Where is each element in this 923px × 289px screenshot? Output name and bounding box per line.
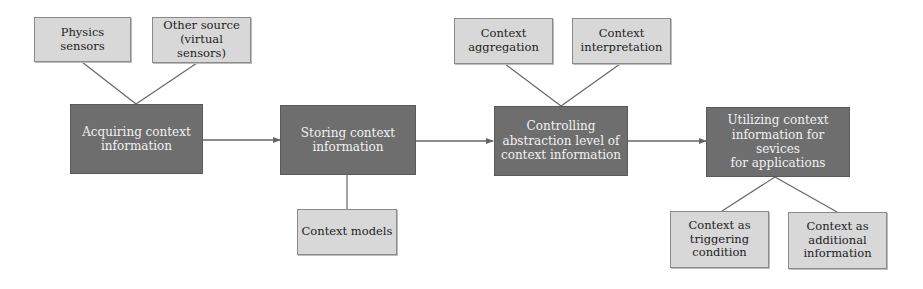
utilize-step-label: Utilizing context information for sevice… bbox=[711, 113, 845, 171]
control-step-label: Controlling abstraction level of context… bbox=[501, 119, 621, 162]
acquire-step-label: Acquiring context information bbox=[82, 125, 191, 154]
context-triggering-label: Context as triggering condition bbox=[688, 219, 750, 260]
store-step-label: Storing context information bbox=[301, 126, 395, 155]
store-step-box: Storing context information bbox=[280, 105, 416, 175]
context-aggregation-box: Context aggregation bbox=[454, 18, 553, 64]
utilize-step-box: Utilizing context information for sevice… bbox=[706, 107, 850, 177]
other-source-box: Other source (virtual sensors) bbox=[152, 17, 251, 63]
context-aggregation-label: Context aggregation bbox=[468, 27, 539, 55]
context-models-label: Context models bbox=[302, 225, 393, 239]
context-interpretation-label: Context interpretation bbox=[581, 27, 663, 55]
other-source-label: Other source (virtual sensors) bbox=[156, 19, 247, 60]
context-additional-box: Context as additional information bbox=[788, 212, 887, 269]
control-step-box: Controlling abstraction level of context… bbox=[494, 106, 628, 176]
context-lifecycle-diagram: Physics sensors Other source (virtual se… bbox=[0, 0, 923, 289]
context-additional-label: Context as additional information bbox=[803, 220, 871, 261]
physics-sensors-box: Physics sensors bbox=[34, 17, 131, 62]
context-interpretation-box: Context interpretation bbox=[572, 18, 671, 64]
context-triggering-box: Context as triggering condition bbox=[670, 211, 769, 268]
context-models-box: Context models bbox=[297, 209, 397, 255]
physics-sensors-label: Physics sensors bbox=[38, 26, 127, 54]
acquire-step-box: Acquiring context information bbox=[70, 104, 203, 174]
